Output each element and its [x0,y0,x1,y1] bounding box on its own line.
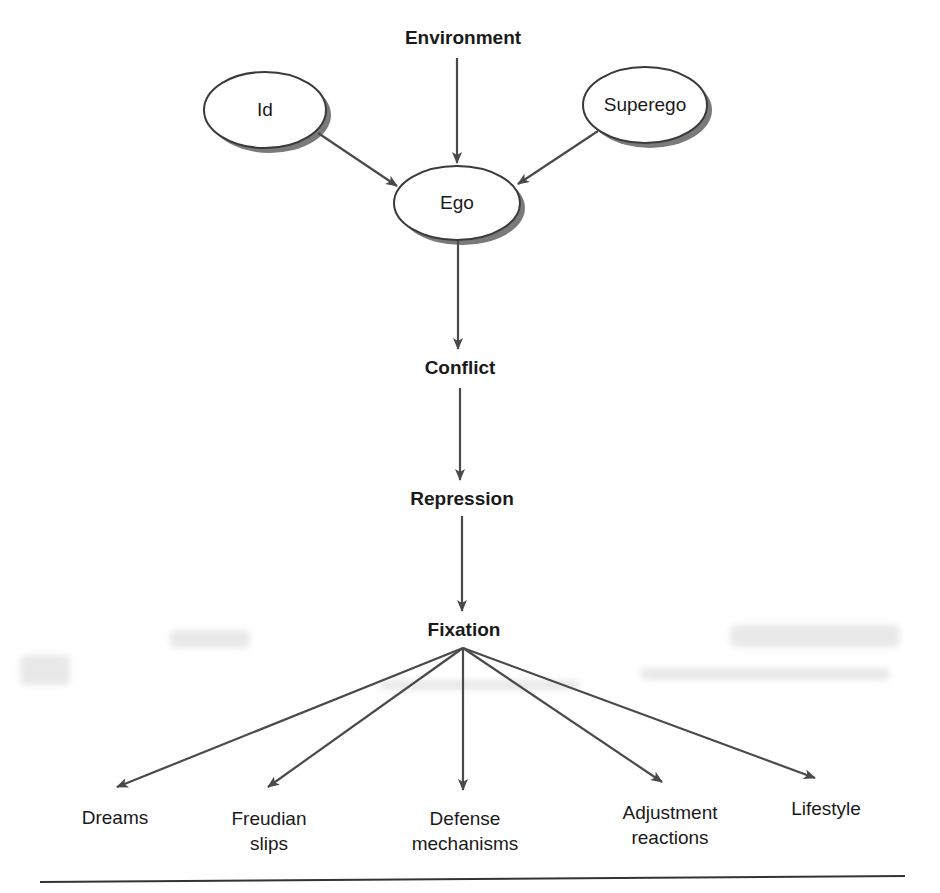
node-ego: Ego [440,192,474,215]
node-dreams: Dreams [82,805,149,830]
arrow-fixation-to-dreams [117,648,463,787]
diagram-canvas: Environment Id Superego Ego Conflict Rep… [0,0,940,893]
node-repression: Repression [410,488,513,511]
node-fixation: Fixation [428,619,501,642]
node-adjustment-reactions: Adjustment reactions [622,800,717,850]
arrow-fixation-to-adjustment_reactions [463,648,662,782]
node-superego: Superego [604,94,686,117]
arrow-id-to-ego [318,133,397,186]
node-defense-mechanisms: Defense mechanisms [412,806,519,856]
node-lifestyle: Lifestyle [791,796,861,821]
bottom-rule [40,876,905,882]
diagram-graphics [0,0,940,893]
node-freudian-slips: Freudian slips [232,806,307,856]
arrow-superego-to-ego [518,131,598,184]
arrow-fixation-to-freudian_slips [268,648,463,787]
node-conflict: Conflict [425,357,496,380]
node-environment: Environment [405,27,521,50]
node-id: Id [257,99,273,122]
arrow-fixation-to-lifestyle [463,648,815,778]
